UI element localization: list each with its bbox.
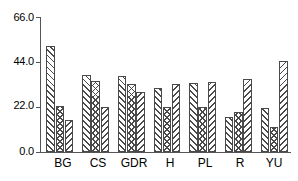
bar-pl-series-3 — [208, 82, 217, 152]
bar-group-yu — [261, 17, 288, 152]
bar-group-r — [225, 17, 252, 152]
bar-group-bg — [46, 17, 73, 152]
bar-h-series-1 — [154, 88, 163, 152]
bar-cs-series-3 — [101, 107, 110, 152]
bar-yu-series-1 — [261, 108, 270, 152]
bar-h-series-3 — [172, 84, 181, 152]
x-tick-label-h: H — [153, 156, 187, 170]
bar-group-h — [154, 17, 181, 152]
bar-group-cs — [82, 17, 109, 152]
x-tick-label-gdr: GDR — [116, 156, 152, 170]
bar-pl-series-1 — [189, 83, 198, 152]
x-tick-label-r: R — [223, 156, 257, 170]
x-tick-label-bg: BG — [46, 156, 80, 170]
bar-gdr-series-3 — [136, 92, 145, 152]
plot-area — [41, 17, 291, 152]
bar-yu-series-2 — [270, 127, 279, 152]
x-tick-label-cs: CS — [81, 156, 115, 170]
bar-gdr-series-2 — [127, 84, 136, 152]
bar-group-pl — [189, 17, 216, 152]
bar-group-gdr — [118, 17, 145, 152]
bar-bg-series-2 — [56, 106, 65, 152]
y-tick-label-0: 0.0 — [19, 145, 34, 157]
x-axis — [40, 152, 291, 153]
bar-r-series-3 — [243, 79, 252, 152]
bar-h-series-2 — [163, 107, 172, 152]
bar-cs-series-1 — [82, 75, 91, 152]
bar-bg-series-1 — [46, 46, 55, 152]
y-tick-label-22: 22.0 — [13, 99, 34, 111]
x-tick-label-pl: PL — [188, 156, 222, 170]
x-tick-label-yu: YU — [257, 156, 291, 170]
bar-pl-series-2 — [198, 107, 207, 152]
bar-r-series-1 — [225, 117, 234, 152]
bar-yu-series-3 — [279, 61, 288, 152]
bar-r-series-2 — [234, 112, 243, 152]
bar-bg-series-3 — [65, 120, 74, 152]
bar-gdr-series-1 — [118, 76, 127, 152]
y-tick-label-44: 44.0 — [13, 55, 34, 67]
bar-chart: 66.0 44.0 22.0 0.0 BG CS GDR H PL R YU — [0, 0, 298, 181]
y-tick-label-66: 66.0 — [13, 11, 34, 23]
bar-cs-series-2 — [91, 81, 100, 152]
